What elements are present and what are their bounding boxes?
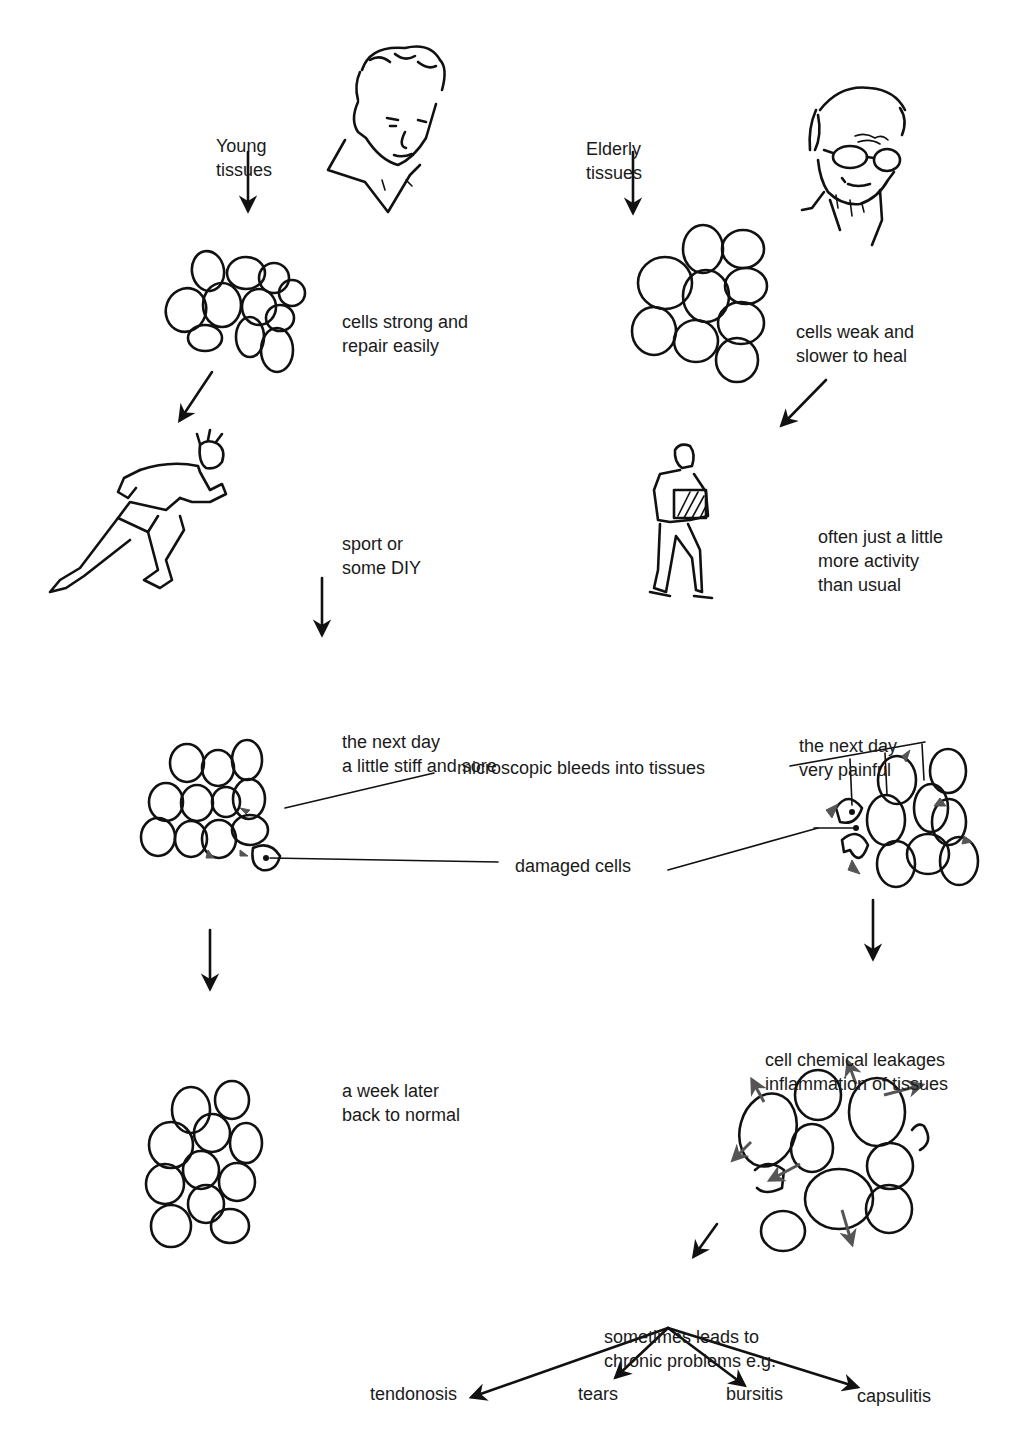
elderly-cells-label: cells weak andslower to heal (796, 272, 914, 392)
chronic-tears: tears (578, 1382, 618, 1406)
chronic-bursitis: bursitis (726, 1382, 783, 1406)
microscopic-bleeds-callout: microscopic bleeds into tissues (457, 756, 705, 780)
young-damaged-cells-icon (141, 740, 280, 870)
arrow-down-left-icon (180, 372, 212, 420)
damaged-cells-callout: damaged cells (515, 854, 631, 878)
lifter-icon (650, 445, 712, 598)
young-tissues-title: Youngtissues (216, 86, 272, 206)
elderly-weak-cells-icon (632, 225, 767, 382)
runner-icon (50, 430, 226, 592)
inflammation-label: cell chemical leakagesinflammation of ti… (765, 1000, 948, 1120)
chronic-problems-label: sometimes leads tochronic problems e.g. (604, 1277, 776, 1397)
chronic-tendonosis: tendonosis (370, 1382, 457, 1406)
young-face-icon (328, 47, 445, 213)
chronic-capsulitis: capsulitis (857, 1384, 931, 1408)
young-cells-label: cells strong andrepair easily (342, 262, 468, 382)
week-later-label: a week laterback to normal (342, 1031, 460, 1151)
arrow-down-left-icon (694, 1224, 717, 1256)
young-recovered-cells-icon (146, 1081, 262, 1247)
elderly-next-day-label: the next dayvery painful (799, 686, 897, 806)
young-activity-label: sport orsome DIY (342, 484, 421, 604)
young-healthy-cells-icon (160, 249, 305, 372)
elderly-face-icon (802, 87, 905, 245)
elderly-activity-label: often just a littlemore activitythan usu… (818, 477, 943, 621)
elderly-tissues-title: Elderlytissues (586, 89, 642, 209)
young-next-day-label: the next daya little stiff and sore (342, 682, 497, 802)
